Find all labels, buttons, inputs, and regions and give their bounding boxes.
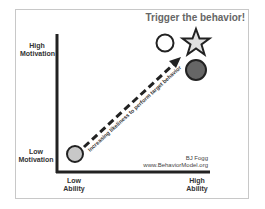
x-high-line1: High	[183, 177, 211, 185]
y-axis-low-label: Low Motivation	[18, 148, 54, 164]
diagram-title: Trigger the behavior!	[145, 12, 245, 23]
credit-author: BJ Fogg	[186, 155, 208, 161]
y-high-line2: Motivation	[20, 50, 54, 58]
low-circle-icon	[67, 146, 83, 162]
y-axis-high-label: High Motivation	[20, 42, 54, 58]
x-high-line2: Ability	[183, 185, 211, 193]
high-circle-icon	[186, 60, 206, 80]
dashed-arrow-line	[84, 63, 175, 147]
behavior-model-diagram: Increasing likeliness to perform target …	[0, 0, 265, 209]
y-low-line2: Motivation	[18, 156, 54, 164]
open-circle-icon	[157, 35, 174, 52]
x-low-line1: Low	[60, 177, 88, 185]
y-low-line1: Low	[18, 148, 54, 156]
x-axis-high-label: High Ability	[183, 177, 211, 193]
x-low-line2: Ability	[60, 185, 88, 193]
y-high-line1: High	[20, 42, 54, 50]
credit-site: www.BehaviorModel.org	[143, 162, 208, 168]
x-axis-low-label: Low Ability	[60, 177, 88, 193]
star-icon	[183, 29, 210, 55]
arrow-label: Increasing likeliness to perform target …	[87, 64, 183, 153]
